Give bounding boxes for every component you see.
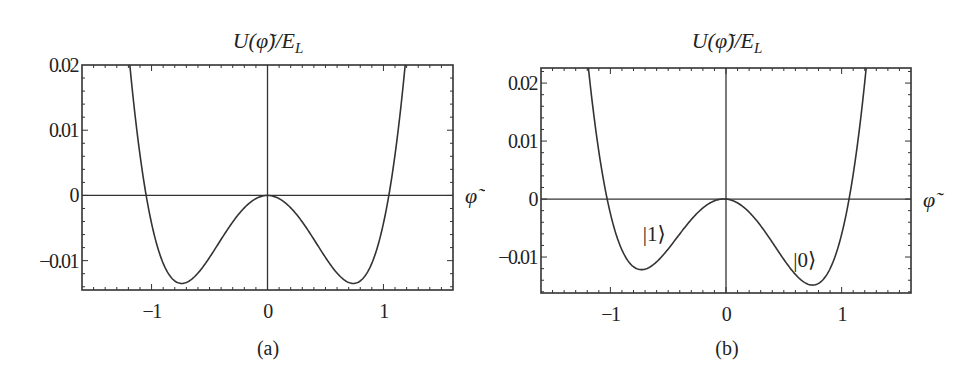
x-axis-label: φ̃ bbox=[465, 183, 485, 208]
panel-caption: (a) bbox=[257, 337, 279, 360]
y-tick-label: 0 bbox=[70, 184, 80, 206]
y-tick-label: −0.01 bbox=[39, 250, 78, 272]
x-tick-label: −1 bbox=[142, 300, 161, 322]
x-tick-label: 1 bbox=[837, 303, 846, 325]
x-tick-label: 0 bbox=[722, 303, 732, 325]
x-tick-label: 1 bbox=[379, 300, 388, 322]
x-tick-label: 0 bbox=[263, 300, 273, 322]
y-tick-label: 0.01 bbox=[49, 119, 79, 141]
chart-title: U(φ̃)/EL bbox=[233, 28, 304, 56]
y-tick-label: −0.01 bbox=[498, 246, 537, 268]
state-annotation: |0⟩ bbox=[793, 248, 816, 272]
y-tick-label: 0.02 bbox=[508, 72, 538, 94]
state-annotation: |1⟩ bbox=[643, 222, 666, 246]
panel-b: −101−0.0100.010.02U(φ̃)/ELφ̃|1⟩|0⟩(b) bbox=[485, 0, 970, 387]
panel-caption: (b) bbox=[715, 337, 738, 360]
y-tick-label: 0.01 bbox=[508, 130, 538, 152]
chart-a: −101−0.0100.010.02U(φ̃)/ELφ̃(a) bbox=[0, 0, 485, 387]
y-tick-label: 0.02 bbox=[49, 54, 79, 76]
chart-b: −101−0.0100.010.02U(φ̃)/ELφ̃|1⟩|0⟩(b) bbox=[485, 0, 970, 387]
panel-a: −101−0.0100.010.02U(φ̃)/ELφ̃(a) bbox=[0, 0, 485, 387]
chart-title: U(φ̃)/EL bbox=[692, 28, 763, 56]
x-tick-label: −1 bbox=[601, 303, 620, 325]
x-axis-label: φ̃ bbox=[923, 187, 944, 212]
y-tick-label: 0 bbox=[529, 188, 539, 210]
